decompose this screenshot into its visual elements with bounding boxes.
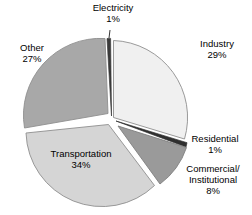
pie-label-residential-name: Residential	[180, 133, 250, 144]
pie-label-commercial-institutional: Commercial/ Institutional 8%	[176, 163, 250, 196]
pie-label-transportation-value: 34%	[35, 159, 127, 170]
pie-label-residential: Residential 1%	[180, 133, 250, 155]
pie-label-transportation-name: Transportation	[35, 148, 127, 159]
pie-label-electricity-name: Electricity	[77, 2, 149, 13]
pie-label-other: Other 27%	[2, 42, 62, 64]
pie-label-transportation: Transportation 34%	[35, 148, 127, 170]
pie-label-electricity-value: 1%	[77, 13, 149, 24]
pie-label-industry-value: 29%	[186, 49, 248, 60]
pie-label-industry: Industry 29%	[186, 38, 248, 60]
pie-label-industry-name: Industry	[186, 38, 248, 49]
pie-label-residential-value: 1%	[180, 144, 250, 155]
pie-label-electricity: Electricity 1%	[77, 2, 149, 24]
pie-label-commercial-name-line1: Commercial/	[176, 163, 250, 174]
pie-label-commercial-value: 8%	[176, 185, 250, 196]
pie-label-other-name: Other	[2, 42, 62, 53]
pie-label-commercial-name-line2: Institutional	[176, 174, 250, 185]
pie-label-other-value: 27%	[2, 53, 62, 64]
electricity-leader-line	[109, 30, 110, 38]
pie-chart: Electricity 1% Industry 29% Other 27% Tr…	[0, 0, 252, 215]
